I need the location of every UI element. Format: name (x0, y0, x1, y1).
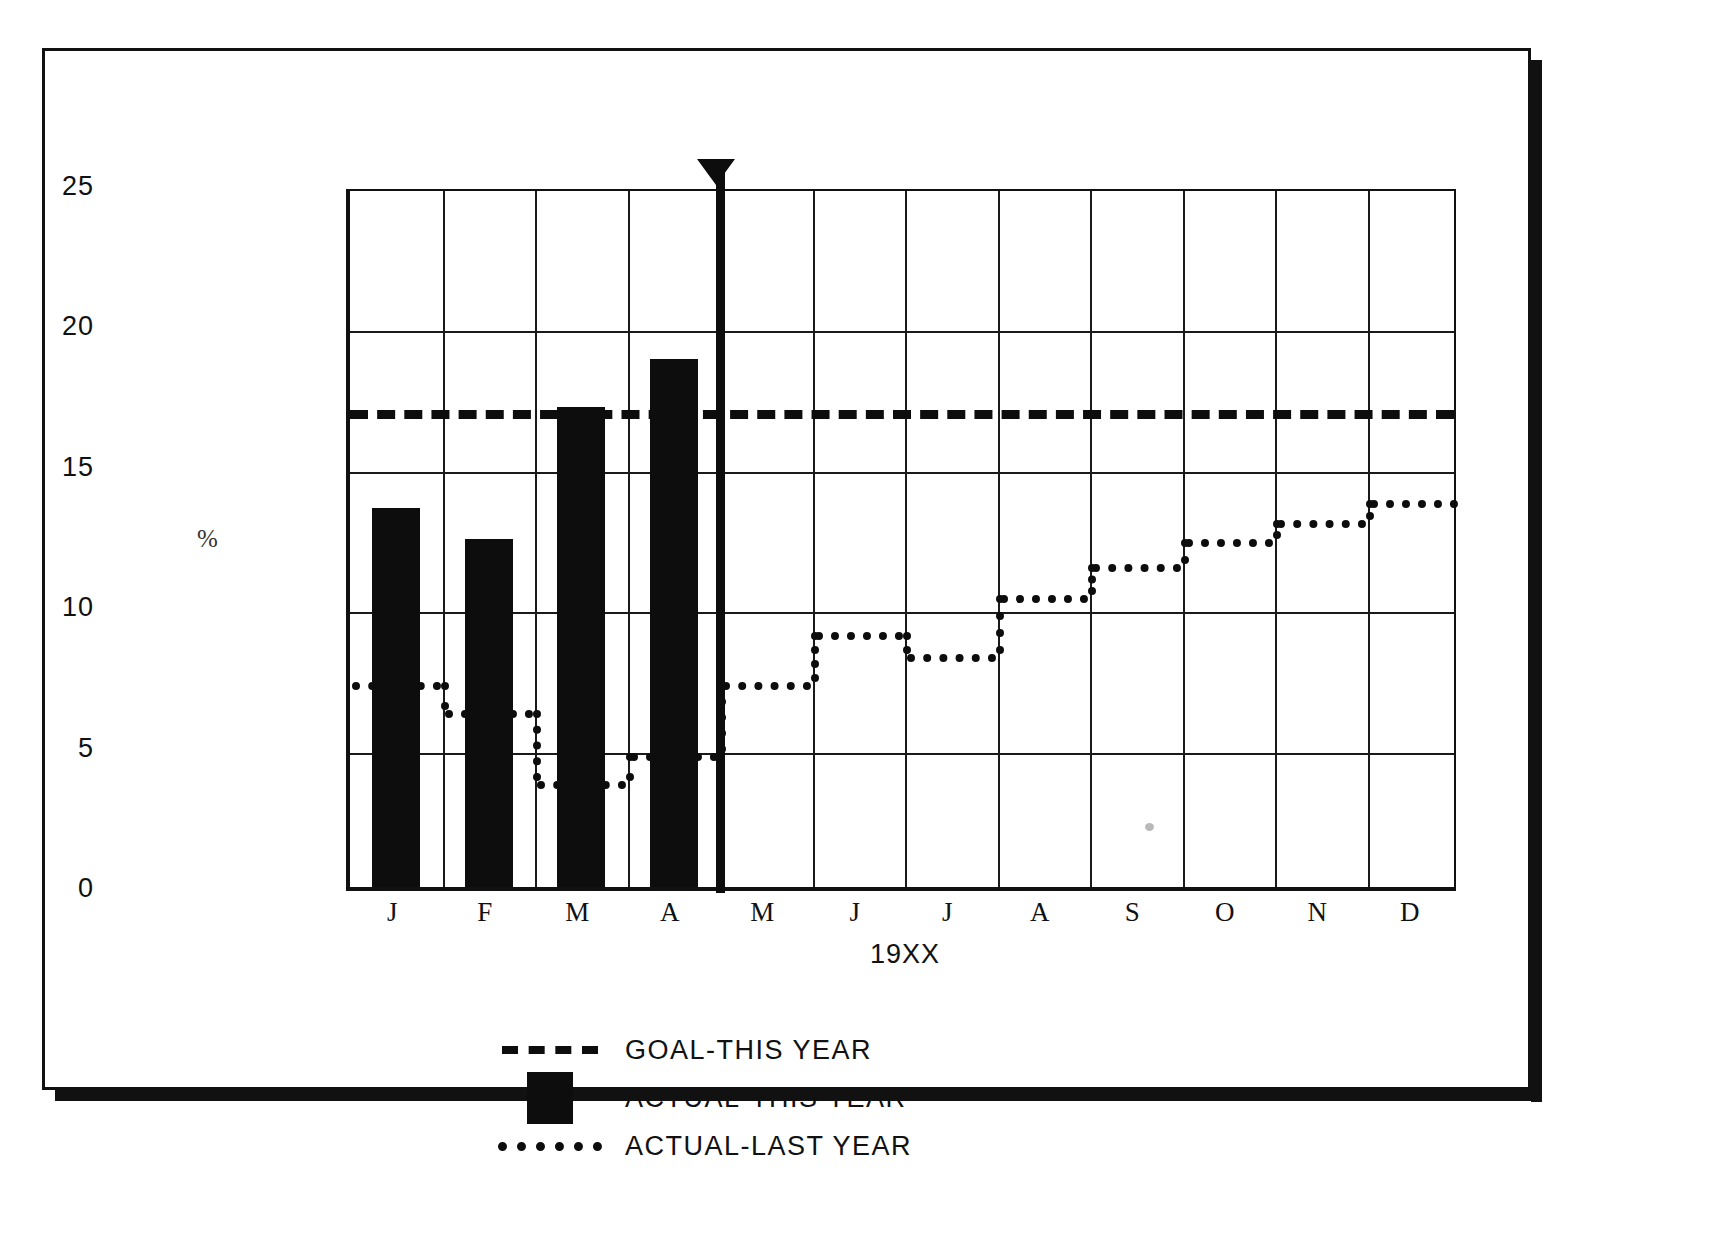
x-axis-tick-label: M (537, 897, 617, 928)
y-axis-tick-label: 20 (34, 311, 94, 342)
bar-a-3 (650, 359, 698, 887)
legend-item-goal: GOAL-THIS YEAR (475, 1026, 912, 1074)
paper-speck (1145, 823, 1154, 831)
bar-j-0 (372, 508, 420, 887)
x-axis-tick-label: O (1185, 897, 1265, 928)
gridline-vertical (1368, 191, 1370, 887)
dashed-line-swatch-icon (475, 1027, 625, 1073)
bar-m-2 (557, 407, 605, 887)
dotted-step-segment (907, 654, 996, 662)
legend-label-goal: GOAL-THIS YEAR (625, 1035, 872, 1066)
x-axis-tick-label: J (352, 897, 432, 928)
x-axis-tick-label: D (1370, 897, 1450, 928)
gridline-horizontal (350, 753, 1454, 755)
legend-label-actual-last-year: ACTUAL-LAST YEAR (625, 1131, 912, 1162)
x-axis-tick-label: J (815, 897, 895, 928)
x-axis-tick-label: M (722, 897, 802, 928)
gridline-horizontal (350, 331, 1454, 333)
gridline-vertical (443, 191, 445, 887)
current-period-marker-arrow-icon (697, 159, 735, 185)
dotted-step-segment (1185, 539, 1274, 547)
legend-item-actual-last-year: ACTUAL-LAST YEAR (475, 1122, 912, 1170)
y-axis-label: % (197, 525, 218, 553)
x-axis-tick-label: S (1092, 897, 1172, 928)
y-axis-tick-label: 5 (34, 733, 94, 764)
x-axis-tick-label: A (1000, 897, 1080, 928)
plot-area (346, 189, 1456, 891)
page-frame: % 19XX GOAL-THIS YEAR ACTUAL-THIS YEAR A… (42, 48, 1531, 1090)
gridline-vertical (813, 191, 815, 887)
x-axis-tick-label: J (907, 897, 987, 928)
dotted-step-segment (1277, 520, 1366, 528)
dotted-step-segment (1000, 595, 1089, 603)
y-axis-tick-label: 10 (34, 592, 94, 623)
dotted-step-segment (722, 682, 811, 690)
y-axis-tick-label: 0 (34, 873, 94, 904)
dotted-line-swatch-icon (475, 1123, 625, 1169)
x-axis-tick-label: F (445, 897, 525, 928)
dotted-step-segment (1092, 564, 1181, 572)
gridline-vertical (998, 191, 1000, 887)
current-period-marker-line (716, 161, 725, 893)
dotted-step-segment (1370, 500, 1459, 508)
dotted-step-riser (903, 632, 911, 654)
x-axis-tick-label: A (630, 897, 710, 928)
solid-block-swatch-icon (475, 1075, 625, 1121)
gridline-vertical (905, 191, 907, 887)
legend-item-actual-this-year: ACTUAL-THIS YEAR (475, 1074, 912, 1122)
gridline-horizontal (350, 612, 1454, 614)
dotted-step-riser (996, 595, 1004, 654)
x-axis-tick-label: N (1277, 897, 1357, 928)
gridline-horizontal (350, 472, 1454, 474)
y-axis-tick-label: 25 (34, 171, 94, 202)
legend-label-actual-this-year: ACTUAL-THIS YEAR (625, 1083, 907, 1114)
goal-line (350, 410, 1454, 419)
dotted-step-riser (533, 710, 541, 780)
dotted-step-segment (815, 632, 904, 640)
chart-legend: GOAL-THIS YEAR ACTUAL-THIS YEAR ACTUAL-L… (475, 1026, 912, 1170)
dotted-step-riser (441, 682, 449, 710)
gridline-vertical (628, 191, 630, 887)
gridline-vertical (1090, 191, 1092, 887)
x-axis-label: 19XX (45, 939, 1720, 970)
y-axis-tick-label: 15 (34, 452, 94, 483)
bar-f-1 (465, 539, 513, 887)
